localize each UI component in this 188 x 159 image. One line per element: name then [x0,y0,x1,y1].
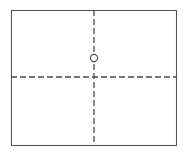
technical-drawing-svg [0,0,188,159]
drawing-canvas [0,0,188,159]
hole-marker [90,54,97,61]
